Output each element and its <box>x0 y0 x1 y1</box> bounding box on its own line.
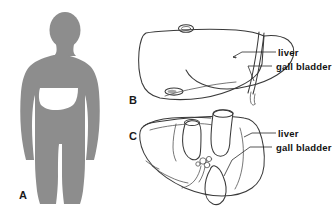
label-b-liver: liver <box>278 47 299 58</box>
panel-letter-a: A <box>19 189 27 201</box>
figure-container: A B <box>0 0 333 211</box>
panel-b-group: B liver gall bladder <box>129 25 332 106</box>
silhouette-head <box>50 12 81 48</box>
panel-a-group: A <box>19 12 100 204</box>
portal-vein-c <box>183 121 201 160</box>
silhouette-body <box>20 55 100 204</box>
panel-letter-b: B <box>129 94 137 106</box>
panel-c-group: C liver gall bladder <box>129 110 332 205</box>
label-c-gall-bladder: gall bladder <box>276 142 332 153</box>
anatomy-figure-svg: A B <box>0 0 333 211</box>
label-c-liver: liver <box>278 128 299 139</box>
label-b-gall-bladder: gall bladder <box>276 61 332 72</box>
liver-b-outline <box>139 29 264 99</box>
panel-letter-c: C <box>129 130 137 142</box>
silhouette-neck <box>54 44 76 56</box>
round-ligament-edge <box>254 94 255 104</box>
liver-c-outline <box>140 116 265 196</box>
